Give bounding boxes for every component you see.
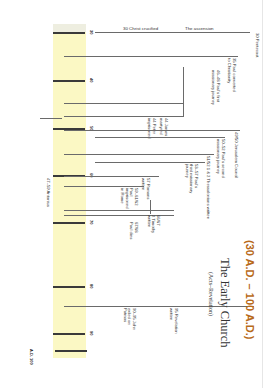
event-pentecost: 30 Pentecost	[254, 33, 259, 57]
page-edge-rule	[262, 0, 263, 388]
event-paul-dies: 67/68 Paul dies	[129, 222, 138, 239]
event-antonius: 47–59 Antonius	[45, 178, 50, 207]
event-first-journey: 46–48 Paul's first missionary journey	[211, 70, 220, 105]
event-peter: 44 Peter imprisoned	[147, 118, 156, 138]
event-jerusalem: 49/50 Jerusalem Council	[233, 132, 238, 178]
line-30	[95, 32, 250, 33]
tick-label-70: 70	[89, 220, 94, 224]
tick-label-100: A.D. 100	[29, 349, 34, 365]
event-paul-converted: 35 Paul converted to Christianity	[227, 58, 236, 92]
event-timothy: 66/67 2 Timothy written	[146, 215, 160, 233]
line-44	[64, 103, 184, 104]
line-51	[64, 154, 214, 155]
line-59	[64, 186, 144, 187]
tick-label-90: 90	[89, 331, 94, 335]
line-49	[64, 130, 240, 131]
tick-label-30: 30	[89, 30, 94, 34]
timeline-band	[53, 24, 86, 358]
tick-label-40: 40	[89, 78, 94, 82]
event-third-journey: 53–57 Paul's third missionary journey	[184, 164, 198, 193]
event-james: 44 James martyred	[159, 118, 168, 136]
page-title: The Early Church	[217, 258, 232, 348]
tick-30	[53, 32, 85, 34]
event-john-patmos: 90–95 John exiled on Patmos	[122, 308, 136, 330]
tick-70	[53, 222, 85, 224]
event-revelation: 95 Revelation written	[169, 308, 178, 334]
event-crucified: 30 Christ crucified	[123, 26, 158, 31]
line-35	[64, 56, 238, 57]
connector-66	[150, 200, 151, 214]
timeline-band-top	[53, 24, 86, 32]
tick-100	[55, 350, 87, 352]
line-53	[95, 162, 205, 163]
event-ascension: The ascension	[185, 26, 214, 31]
line-44b	[64, 116, 184, 117]
tick-90	[53, 333, 85, 335]
line-66	[64, 210, 174, 211]
line-antonius	[40, 118, 62, 119]
line-57	[64, 176, 159, 177]
event-second-journey: 50–52 Paul's second missionary journey	[216, 139, 225, 178]
event-romans: 57 Romans written	[141, 178, 150, 199]
tick-40	[53, 80, 85, 82]
span-first-journey	[183, 67, 184, 117]
event-paul-rome: 59–61/62 Paul imprisoned in Rome	[120, 188, 138, 208]
line-50	[95, 137, 225, 138]
page-subtitle: (Acts–Revelation)	[208, 272, 214, 316]
title-range: (30 A.D. – 100 A.D.)	[244, 240, 256, 339]
tick-80	[53, 286, 85, 288]
event-thessalonians: 51/52 1 & 2 Thessalonians written	[205, 156, 210, 219]
tick-label-80: 80	[89, 284, 94, 288]
